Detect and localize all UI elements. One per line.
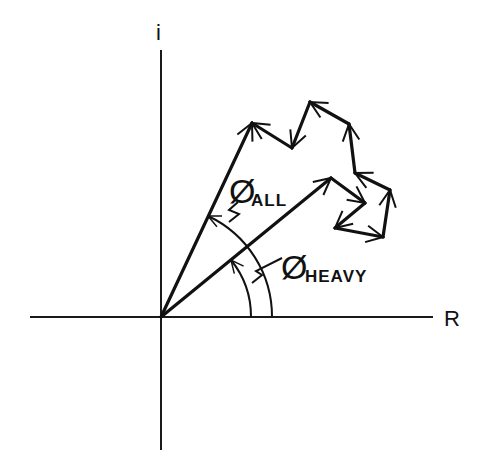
phi-heavy-subscript: HEAVY <box>305 267 367 286</box>
phi-all-label: Ø ALL <box>229 172 287 210</box>
component-vector <box>383 190 390 237</box>
phi-all-arc <box>208 216 272 317</box>
real-axis-label: R <box>444 306 460 331</box>
component-vector-chain <box>252 102 390 237</box>
axes: R i <box>30 20 460 450</box>
component-vector <box>335 228 383 237</box>
imaginary-axis-label: i <box>156 20 161 45</box>
phi-all-vector <box>161 123 252 317</box>
component-vector <box>252 123 292 148</box>
component-vector <box>310 102 349 124</box>
phi-all-subscript: ALL <box>251 191 287 210</box>
component-vector <box>349 124 355 173</box>
component-vector <box>331 178 365 203</box>
phasor-diagram: R i Ø ALL Ø HEAVY <box>0 0 483 475</box>
component-vector <box>292 102 310 148</box>
angle-arcs <box>208 216 272 317</box>
component-vector <box>335 203 365 228</box>
phi-heavy-arc <box>231 260 251 317</box>
phi-heavy-symbol: Ø <box>281 248 307 286</box>
label-leaders <box>229 202 282 283</box>
phi-heavy-label: Ø HEAVY <box>281 248 367 286</box>
component-vector <box>355 173 390 190</box>
